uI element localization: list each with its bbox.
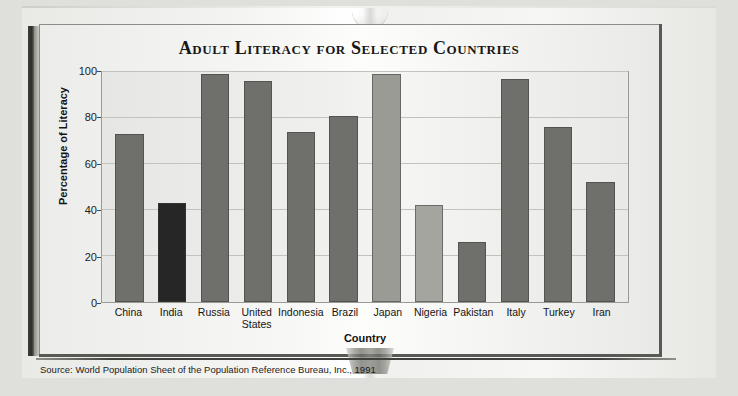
y-tick-mark bbox=[97, 71, 101, 72]
x-axis-title: Country bbox=[101, 332, 629, 344]
bar-slot bbox=[279, 72, 322, 302]
bar-slot bbox=[451, 72, 494, 302]
bar-slot bbox=[322, 72, 365, 302]
bar-italy bbox=[501, 79, 529, 302]
bar-slot bbox=[365, 72, 408, 302]
plot-area bbox=[101, 71, 629, 303]
bar-brazil bbox=[329, 116, 357, 302]
bar-iran bbox=[586, 182, 614, 302]
bar-slot bbox=[408, 72, 451, 302]
bar-japan bbox=[372, 74, 400, 302]
bar-pakistan bbox=[458, 242, 486, 302]
bar-slot bbox=[236, 72, 279, 302]
bar-series bbox=[102, 72, 628, 302]
bar-slot bbox=[194, 72, 237, 302]
source-divider bbox=[36, 358, 676, 360]
y-axis-title: Percentage of Literacy bbox=[57, 30, 69, 262]
book-spread-scene: Adult Literacy for Selected Countries 02… bbox=[0, 0, 738, 396]
y-tick-mark bbox=[97, 210, 101, 211]
chart-title: Adult Literacy for Selected Countries bbox=[39, 38, 659, 59]
bar-nigeria bbox=[415, 205, 443, 302]
bar-slot bbox=[493, 72, 536, 302]
bar-indonesia bbox=[287, 132, 315, 302]
bar-china bbox=[115, 134, 143, 302]
chart-figure: Adult Literacy for Selected Countries 02… bbox=[39, 24, 662, 357]
source-note: Source: World Population Sheet of the Po… bbox=[40, 364, 376, 375]
bar-united-states bbox=[244, 81, 272, 302]
bar-india bbox=[158, 203, 186, 302]
y-tick-mark bbox=[97, 117, 101, 118]
bar-slot bbox=[108, 72, 151, 302]
y-tick-mark bbox=[97, 164, 101, 165]
bar-russia bbox=[201, 74, 229, 302]
y-tick-mark bbox=[97, 257, 101, 258]
y-tick-mark bbox=[97, 303, 101, 304]
bar-slot bbox=[151, 72, 194, 302]
bar-slot bbox=[579, 72, 622, 302]
y-tick-label: 0 bbox=[61, 297, 97, 309]
bar-turkey bbox=[544, 127, 572, 302]
bar-slot bbox=[536, 72, 579, 302]
